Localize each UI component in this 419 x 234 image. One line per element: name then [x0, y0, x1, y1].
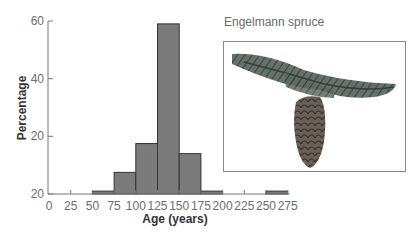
- histogram-bar: [158, 24, 180, 194]
- x-tick-label: 250: [256, 199, 276, 213]
- x-tick-label: 25: [64, 199, 78, 213]
- x-tick-label: 75: [107, 199, 121, 213]
- histogram-bar: [136, 144, 158, 194]
- y-tick-label: 60: [31, 14, 45, 28]
- histogram-bar: [179, 154, 201, 194]
- x-tick-label: 125: [147, 199, 167, 213]
- x-tick-label: 275: [278, 199, 298, 213]
- spruce-branch-icon: [224, 42, 405, 171]
- x-tick-label: 100: [126, 199, 146, 213]
- x-tick-label: 200: [213, 199, 233, 213]
- y-tick-label: 20: [31, 129, 45, 143]
- y-tick-label: 40: [31, 72, 45, 86]
- x-tick-label: 0: [46, 199, 53, 213]
- histogram-bar: [114, 172, 136, 194]
- x-axis-title: Age (years): [142, 212, 207, 226]
- y-tick-label: 20: [31, 187, 45, 201]
- inset-title: Engelmann spruce: [224, 15, 324, 29]
- x-tick-label: 50: [86, 199, 100, 213]
- x-tick-label: 150: [169, 199, 189, 213]
- y-ticks: 20204060: [31, 14, 53, 201]
- spruce-illustration: [223, 41, 406, 172]
- x-tick-label: 175: [191, 199, 211, 213]
- x-tick-label: 225: [234, 199, 254, 213]
- y-axis-title: Percentage: [15, 75, 29, 140]
